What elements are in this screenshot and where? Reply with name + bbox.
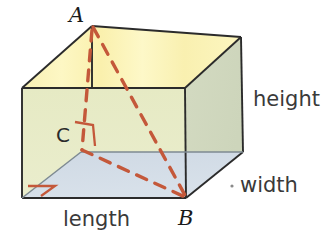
dimension-label-width: width [240, 173, 298, 197]
vertex-label-c: C [56, 123, 70, 147]
width-leader-dot [230, 184, 233, 187]
dimension-label-length: length [63, 207, 130, 231]
edge-vertical-front-right [185, 88, 186, 198]
vertex-label-b: B [177, 206, 193, 230]
prism-figure: A B C height width length [0, 0, 333, 234]
vertex-label-a: A [67, 3, 84, 27]
prism-svg: A B C height width length [0, 0, 333, 234]
dimension-label-height: height [253, 87, 320, 111]
